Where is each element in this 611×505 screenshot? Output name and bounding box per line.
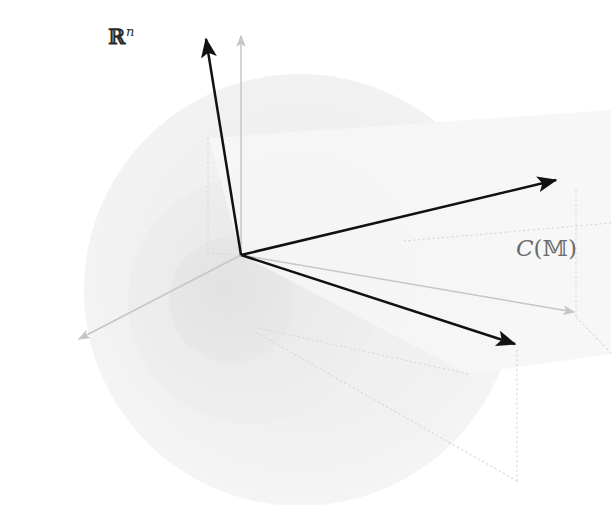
label-ambient-space-exponent: n xyxy=(126,24,135,39)
label-column-space: C(𝕄) xyxy=(516,235,577,261)
label-column-space-c: C xyxy=(516,235,534,261)
label-column-space-paren-open: ( xyxy=(534,235,543,261)
projection-diagram-figure: ℝn C(𝕄) xyxy=(0,0,611,505)
label-ambient-space-symbol: ℝ xyxy=(108,24,126,49)
label-ambient-space: ℝn xyxy=(108,24,135,49)
label-column-space-paren-close: ) xyxy=(568,235,577,261)
label-column-space-m: 𝕄 xyxy=(543,235,568,261)
